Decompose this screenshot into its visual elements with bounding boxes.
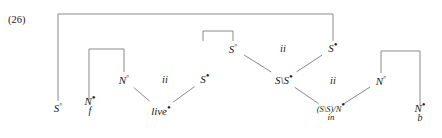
polarity-filled-icon: • [92, 91, 96, 103]
rule-label-ii-mid: ii [280, 43, 286, 54]
link-layer [0, 0, 442, 138]
node-word: f [84, 106, 95, 116]
node-s-open-root: S◦ [54, 100, 63, 114]
node-s-open-mid: S◦ [229, 41, 238, 55]
node-category: S [328, 43, 334, 54]
polarity-filled-icon: • [422, 98, 426, 110]
node-word: live [151, 105, 167, 117]
node-live: live• [151, 106, 171, 117]
polarity-open-icon: ◦ [59, 99, 62, 109]
axiom-link [203, 31, 233, 41]
polarity-open-icon: ◦ [234, 40, 237, 50]
axiom-link-group [58, 14, 420, 106]
node-n-filled-f: N•f [84, 96, 95, 116]
derivation-edge [344, 87, 371, 104]
node-n-open-left: N◦ [119, 72, 130, 86]
derivation-edge [134, 88, 150, 102]
derivation-edge [295, 87, 319, 103]
node-s-filled-left: S• [200, 74, 209, 85]
axiom-link [58, 14, 333, 101]
derivation-edge [244, 55, 271, 72]
polarity-open-icon: ◦ [383, 72, 386, 82]
polarity-open-icon: ◦ [126, 71, 129, 81]
rule-label-ii-left: ii [162, 74, 168, 85]
node-n-filled-b: N•b [414, 103, 425, 123]
node-n-open-right: N◦ [376, 73, 387, 87]
equation-number: (26) [8, 14, 26, 25]
polarity-filled-icon: • [167, 101, 171, 113]
axiom-link [381, 51, 420, 106]
polarity-filled-icon: • [341, 98, 345, 110]
node-category: S\S [275, 75, 289, 86]
node-category: S [200, 74, 206, 85]
derivation-edge [173, 87, 194, 103]
node-word: in [317, 113, 345, 122]
node-word: b [414, 113, 425, 123]
node-s-filled-right: S• [328, 43, 337, 54]
rule-label-ii-right: ii [330, 75, 336, 86]
polarity-filled-icon: • [206, 69, 210, 81]
polarity-filled-icon: • [334, 38, 338, 50]
node-s-under-s-filled: S\S• [275, 75, 293, 86]
node-in: (S\S)/N•in [317, 103, 345, 122]
figure-canvas: (26) S◦N•fN◦S•live•S◦S•S\S•N◦(S\S)/N•inN… [0, 0, 442, 138]
derivation-edge [297, 55, 323, 72]
polarity-filled-icon: • [289, 70, 293, 82]
